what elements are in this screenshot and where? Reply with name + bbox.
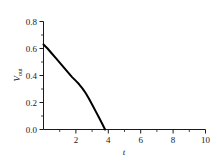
x-tick-label-6: 6 [138, 135, 143, 145]
x-tick-label-4: 4 [106, 135, 111, 145]
x-tick-labels: 2 4 6 8 10 [74, 135, 211, 145]
chart-figure: 0.8 0.6 0.4 0.2 0.0 2 4 6 8 10 t Vout [0, 0, 217, 166]
y-axis-major-ticks [40, 22, 44, 130]
x-tick-label-8: 8 [171, 135, 176, 145]
chart-svg: 0.8 0.6 0.4 0.2 0.0 2 4 6 8 10 t Vout [0, 0, 217, 166]
y-axis-title-sub: out [17, 68, 23, 76]
x-axis-major-ticks [76, 130, 206, 134]
y-tick-label-0.2: 0.2 [26, 98, 37, 108]
y-tick-label-0.6: 0.6 [26, 44, 38, 54]
x-axis-title: t [123, 147, 126, 157]
y-axis-title-group: Vout [12, 68, 23, 82]
axis-spines [44, 22, 206, 130]
y-tick-label-0.0: 0.0 [26, 125, 38, 135]
axis-spine-path [44, 22, 206, 130]
y-tick-labels: 0.8 0.6 0.4 0.2 0.0 [26, 17, 38, 135]
y-tick-label-0.4: 0.4 [26, 71, 38, 81]
y-tick-label-0.8: 0.8 [26, 17, 38, 27]
data-curve-vout [44, 44, 106, 129]
x-tick-label-2: 2 [74, 135, 79, 145]
y-axis-title: Vout [12, 68, 23, 82]
x-tick-label-10: 10 [201, 135, 211, 145]
